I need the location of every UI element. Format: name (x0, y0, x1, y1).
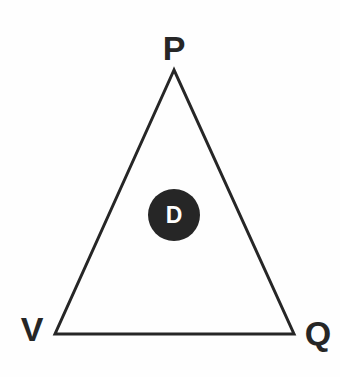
vertex-label-p: P (163, 29, 186, 67)
interior-node-label: D (166, 202, 183, 228)
vertex-label-q: Q (305, 314, 331, 352)
diagram-canvas: P V Q D (0, 0, 340, 377)
vertex-label-v: V (21, 310, 44, 348)
triangle-diagram-svg: P V Q D (0, 0, 340, 377)
